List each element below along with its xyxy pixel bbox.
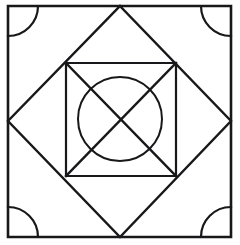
figure-container <box>0 0 240 245</box>
canvas-background <box>0 0 240 245</box>
geometric-figure <box>0 0 240 245</box>
